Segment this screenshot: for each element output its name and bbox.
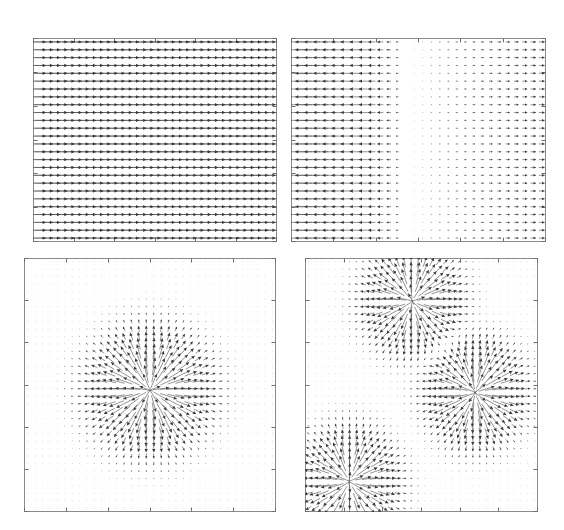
axis-ticks — [292, 39, 546, 242]
axis-ticks — [25, 259, 276, 512]
panel-frame — [25, 259, 276, 512]
vector-field — [33, 40, 277, 239]
vector-field — [305, 258, 536, 512]
quiver-figure — [0, 0, 564, 530]
panel-frame — [292, 39, 546, 242]
quiver-panel-top-right — [291, 38, 546, 242]
vector-field — [27, 261, 272, 508]
quiver-panel-bottom-right — [305, 258, 538, 512]
vector-field — [291, 40, 545, 239]
quiver-panel-top-left — [33, 38, 277, 242]
axis-ticks — [34, 39, 277, 242]
quiver-panel-bottom-left — [24, 258, 276, 512]
panel-frame — [34, 39, 277, 242]
